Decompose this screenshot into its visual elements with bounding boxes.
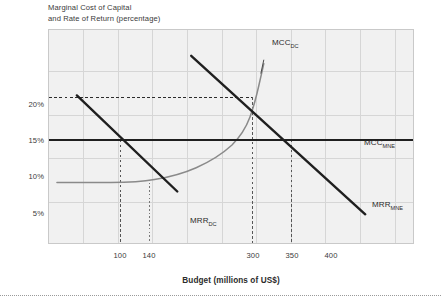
chart-series	[49, 30, 413, 243]
curve-label-mcc-dc: MCCDC	[272, 38, 299, 49]
ytick-10: 10%	[4, 172, 44, 181]
series-mcc-dc	[57, 64, 264, 183]
xaxis-title: Budget (millions of US$)	[48, 276, 414, 285]
curve-label-mcc-dc-base: MCC	[272, 38, 291, 47]
plot-area	[48, 29, 414, 244]
xtick-350: 350	[274, 251, 310, 260]
xtick-300: 300	[235, 251, 271, 260]
xtick-140: 140	[131, 251, 167, 260]
ytick-5: 5%	[4, 209, 44, 218]
curve-label-mrr-mne: MRRMNE	[372, 200, 403, 211]
xtick-400: 400	[313, 251, 349, 260]
bottom-divider	[0, 295, 441, 297]
curve-label-mcc-dc-sub: DC	[291, 43, 299, 49]
series-mrr-mne	[191, 56, 365, 215]
chart-title: Marginal Cost of Capital and Rate of Ret…	[48, 2, 288, 24]
curve-label-mrr-dc-sub: DC	[209, 221, 217, 227]
series-mrr-dc	[77, 95, 177, 191]
curve-label-mcc-mne-sub: MNE	[383, 143, 395, 149]
curve-label-mrr-mne-base: MRR	[372, 200, 391, 209]
curve-label-mcc-mne-base: MCC	[364, 138, 383, 147]
curve-label-mrr-mne-sub: MNE	[391, 205, 403, 211]
ytick-20: 20%	[4, 100, 44, 109]
curve-label-mrr-dc: MRRDC	[190, 216, 217, 227]
ytick-15: 15%	[4, 136, 44, 145]
chart-figure: Marginal Cost of Capital and Rate of Ret…	[0, 0, 441, 303]
curve-label-mcc-mne: MCCMNE	[364, 138, 395, 149]
curve-label-mrr-dc-base: MRR	[190, 216, 209, 225]
